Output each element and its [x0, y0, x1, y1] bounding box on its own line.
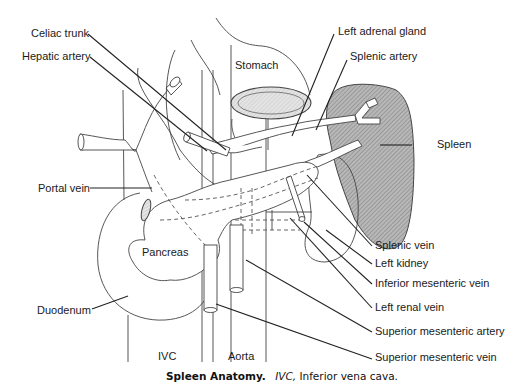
label-splenic-artery: Splenic artery [350, 51, 417, 62]
label-stomach: Stomach [235, 60, 278, 71]
spleen [326, 84, 414, 249]
figure-caption: Spleen Anatomy. IVC, Inferior vena cava. [166, 370, 398, 382]
label-left-kidney: Left kidney [375, 258, 428, 269]
liver-outline [78, 68, 228, 200]
label-pancreas: Pancreas [142, 247, 188, 258]
caption-title: Spleen Anatomy. [166, 370, 266, 382]
label-celiac-trunk: Celiac trunk [31, 28, 89, 39]
label-spleen: Spleen [437, 139, 471, 150]
label-inferior-mesenteric-vein: Inferior mesenteric vein [375, 278, 489, 289]
label-portal-vein: Portal vein [38, 183, 90, 194]
label-ivc: IVC [158, 351, 176, 362]
label-left-adrenal-gland: Left adrenal gland [338, 26, 426, 37]
label-splenic-vein: Splenic vein [375, 240, 434, 251]
label-left-renal-vein: Left renal vein [375, 302, 444, 313]
label-superior-mesenteric-artery: Superior mesenteric artery [375, 326, 505, 337]
label-superior-mesenteric-vein: Superior mesenteric vein [375, 352, 497, 363]
caption-abbreviation: IVC, [275, 370, 296, 382]
label-hepatic-artery: Hepatic artery [22, 51, 90, 62]
label-aorta: Aorta [228, 351, 254, 362]
label-duodenum: Duodenum [37, 305, 91, 316]
caption-definition: Inferior vena cava. [299, 370, 398, 382]
